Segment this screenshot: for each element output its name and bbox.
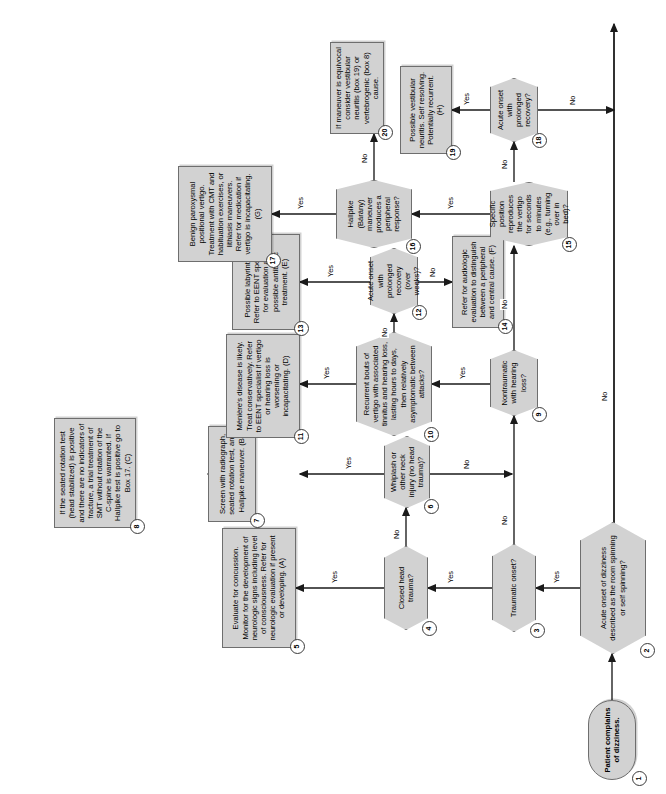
node-7-screen-radiograph[interactable]: Screen with radiograph, seated rotation … <box>208 426 256 522</box>
node-10-label: Recurrent bouts of vertigo with associat… <box>362 332 426 436</box>
edge-label-16-20: No <box>360 153 369 164</box>
edge-label-4-5: Yes <box>330 570 339 584</box>
node-9-label: Nontraumatic with hearing loss? <box>500 350 528 416</box>
node-10-recurrent-bouts-vertigo[interactable]: Recurrent bouts of vertigo with associat… <box>356 332 432 436</box>
node-2-label: Acute onset of dizziness described as th… <box>599 522 627 654</box>
badge-15: 15 <box>562 237 577 252</box>
node-17-bppv[interactable]: Benign paroxysmal positional vertigo. Tr… <box>178 166 272 262</box>
edge-label-4-6: No <box>392 529 401 540</box>
node-15-specific-position-reproduces[interactable]: Specific position reproduces the vertigo… <box>490 182 568 246</box>
badge-3: 3 <box>530 623 545 638</box>
edge-label-15-18: No <box>500 159 509 170</box>
edge-label-2-3: Yes <box>552 570 561 584</box>
edge-label-9-10: Yes <box>458 366 467 380</box>
node-12-label: Acute onset with prolonged recovery (ove… <box>366 248 421 314</box>
badge-9: 9 <box>532 407 547 422</box>
edge-label-2-no: No <box>600 391 609 402</box>
badge-13: 13 <box>294 321 309 336</box>
badge-1: 1 <box>632 771 647 786</box>
badge-4: 4 <box>422 621 437 636</box>
badge-18: 18 <box>532 133 547 148</box>
badge-7: 7 <box>250 513 265 528</box>
edge-label-12-14: No <box>428 267 437 278</box>
badge-2: 2 <box>640 643 655 658</box>
node-16-hallpike-barany-maneuver[interactable]: Hallpike (Bárány) maneuver produces a pe… <box>336 180 412 248</box>
flowchart-canvas: Patient complains of dizziness. 1 Acute … <box>0 0 666 794</box>
edge-label-9-15: No <box>500 299 509 310</box>
node-6-whiplash-neck-injury[interactable]: Whiplash or other neck injury (no head t… <box>384 436 430 508</box>
badge-6: 6 <box>424 499 439 514</box>
node-8-seated-rotation-test[interactable]: If the seated rotation test (head stabil… <box>54 418 136 528</box>
edge-label-15-16: Yes <box>446 196 455 210</box>
node-18-acute-onset-prolonged[interactable]: Acute onset with prolonged recovery? <box>490 78 538 142</box>
node-11-menieres-disease[interactable]: Ménière's disease is likely. Treat conse… <box>226 334 300 438</box>
badge-10: 10 <box>424 427 439 442</box>
badge-20: 20 <box>378 125 393 140</box>
edge-label-10-11: Yes <box>322 366 331 380</box>
node-4-closed-head-trauma[interactable]: Closed head trauma? <box>384 546 428 630</box>
edge-label-6-9: No <box>462 459 471 470</box>
badge-16: 16 <box>406 239 421 254</box>
edge-label-6-7: Yes <box>344 456 353 470</box>
node-14-refer-audiologic-evaluation[interactable]: Refer for audiologic evaluation to disti… <box>452 236 504 328</box>
flowchart-page: Patient complains of dizziness. 1 Acute … <box>0 0 666 794</box>
node-2-acute-onset-spinning[interactable]: Acute onset of dizziness described as th… <box>580 522 646 654</box>
edge-label-10-12: No <box>380 327 389 338</box>
node-19-possible-vestibular-neuritis[interactable]: Possible vestibular neuritis. Self resol… <box>400 66 452 154</box>
node-12-acute-onset-prolonged-weeks[interactable]: Acute onset with prolonged recovery (ove… <box>370 248 418 314</box>
badge-17: 17 <box>266 253 281 268</box>
node-15-label: Specific position reproduces the vertigo… <box>488 182 571 246</box>
node-6-label: Whiplash or other neck injury (no head t… <box>389 436 426 508</box>
node-4-label: Closed head trauma? <box>397 546 415 630</box>
badge-12: 12 <box>412 305 427 320</box>
node-3-label: Traumatic onset? <box>509 544 518 632</box>
node-1-patient-complains[interactable]: Patient complains of dizziness. <box>588 700 636 780</box>
node-9-nontraumatic-hearing-loss[interactable]: Nontraumatic with hearing loss? <box>490 350 538 416</box>
node-5-evaluate-concussion[interactable]: Evaluate for concussion. Monitor for the… <box>222 528 296 648</box>
badge-19: 19 <box>446 145 461 160</box>
edge-label-3-9: No <box>500 515 509 526</box>
node-3-traumatic-onset[interactable]: Traumatic onset? <box>492 544 536 632</box>
edge-label-3-4: Yes <box>446 570 455 584</box>
edge-label-16-17: Yes <box>296 196 305 210</box>
edge-label-18-no: No <box>568 95 577 106</box>
edge-label-12-13: Yes <box>326 264 335 278</box>
node-16-label: Hallpike (Bárány) maneuver produces a pe… <box>346 180 401 248</box>
badge-14: 14 <box>498 319 513 334</box>
node-20-equivocal-maneuver[interactable]: If maneuver is equivocal consider vestib… <box>330 42 384 134</box>
badge-5: 5 <box>290 639 305 654</box>
badge-11: 11 <box>294 429 309 444</box>
badge-8: 8 <box>130 519 145 534</box>
edge-label-18-19: Yes <box>462 92 471 106</box>
node-18-label: Acute onset with prolonged recovery? <box>496 78 533 142</box>
